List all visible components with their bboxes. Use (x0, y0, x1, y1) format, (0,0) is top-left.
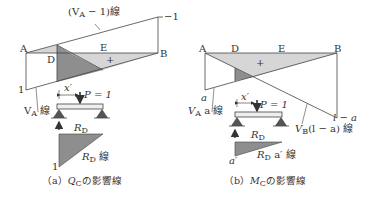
plus-sign: + (256, 57, 264, 68)
figure-b-mc-influence-line: A D E B + a VA a 線 l − a VB(l − a) 線 x′ … (188, 43, 357, 188)
point-b: B (160, 48, 167, 59)
label-rd-line: RD 線 (81, 150, 109, 164)
leader-vb (302, 104, 307, 124)
label-rd-a-prime-line: RD a′ 線 (256, 148, 296, 162)
figure-a-qc-influence-line: (VA − 1)線 −1 A B D E + 1 VA 線 x′ P = 1 R… (18, 5, 179, 188)
label-load: P = 1 (83, 89, 112, 100)
point-a: A (19, 43, 28, 54)
point-b: B (334, 43, 341, 54)
caption-a: （a）QCの影響線 (42, 175, 122, 188)
support-right (275, 117, 287, 126)
influence-line-diagrams: (VA − 1)線 −1 A B D E + 1 VA 線 x′ P = 1 R… (0, 0, 372, 204)
point-d: D (231, 43, 239, 54)
beam (57, 104, 103, 109)
value-a: a (201, 92, 207, 103)
plus-sign: + (106, 54, 114, 65)
value-one-bottom: 1 (52, 161, 58, 172)
support-left (53, 109, 65, 118)
value-one: 1 (18, 84, 24, 95)
value-a-prime: a′ (229, 155, 238, 166)
support-right (96, 109, 108, 118)
value-l-minus-a: l − a (333, 112, 357, 123)
label-rd: RD (250, 129, 265, 142)
point-e: E (100, 42, 107, 53)
caption-b: （b）MCの影響線 (224, 175, 306, 188)
label-rd: RD (73, 122, 88, 135)
label-load: P = 1 (259, 99, 288, 110)
label-x-prime: x′ (64, 82, 73, 93)
shaded-region-light (205, 53, 337, 77)
point-e: E (278, 43, 285, 54)
label-x-prime: x′ (241, 91, 250, 102)
label-va-a-line: VA a 線 (188, 104, 223, 118)
label-va-minus-1-line: (VA − 1)線 (68, 5, 120, 19)
label-minus-one: −1 (164, 11, 179, 22)
label-vb-line: VB(l − a) 線 (295, 122, 353, 136)
point-a: A (198, 43, 207, 54)
point-d: D (47, 54, 55, 65)
label-va-line: VA 線 (23, 104, 50, 118)
leader-va-minus-1 (95, 24, 100, 30)
va-minus-1-line (26, 17, 158, 53)
beam (235, 112, 282, 117)
support-left (231, 117, 243, 126)
